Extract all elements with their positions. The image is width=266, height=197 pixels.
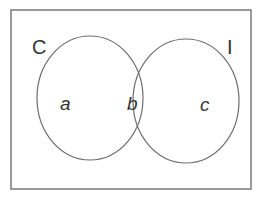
region-label-b: b bbox=[127, 93, 138, 114]
region-label-c: c bbox=[200, 94, 210, 115]
venn-diagram: C I a b c bbox=[0, 0, 266, 197]
region-label-a: a bbox=[60, 93, 71, 114]
set-label-c: C bbox=[32, 36, 46, 58]
venn-diagram-svg: C I a b c bbox=[0, 0, 266, 197]
set-circle-i bbox=[133, 39, 239, 163]
set-label-i: I bbox=[227, 36, 233, 58]
